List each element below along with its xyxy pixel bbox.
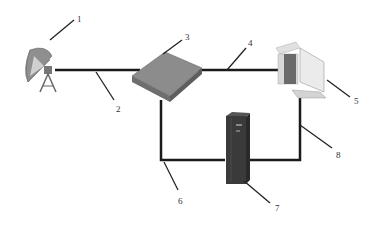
leader-7	[244, 181, 270, 203]
leader-8	[300, 125, 332, 148]
router-icon	[132, 52, 202, 102]
leader-lines	[50, 20, 350, 203]
link-6	[161, 100, 225, 160]
leader-1	[50, 20, 74, 40]
link-8	[250, 96, 300, 160]
labels: 1 2 3 4 5 6 7 8	[77, 14, 359, 213]
satellite-dish-icon	[25, 48, 56, 92]
network-diagram: 1 2 3 4 5 6 7 8	[0, 0, 382, 226]
label-2: 2	[116, 104, 121, 114]
label-8: 8	[336, 150, 341, 160]
leader-2	[96, 72, 114, 100]
leader-6	[164, 162, 178, 190]
computer-icon	[276, 42, 326, 98]
leader-3	[163, 40, 182, 54]
label-5: 5	[354, 96, 359, 106]
label-1: 1	[77, 14, 82, 24]
leader-4	[227, 48, 246, 70]
leader-5	[327, 80, 350, 97]
label-6: 6	[178, 196, 183, 206]
label-3: 3	[185, 32, 190, 42]
label-7: 7	[275, 203, 280, 213]
label-4: 4	[248, 38, 253, 48]
server-icon	[226, 112, 250, 184]
